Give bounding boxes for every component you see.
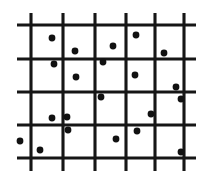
data-point-8 — [73, 74, 80, 81]
data-point-21 — [17, 138, 24, 145]
data-point-13 — [49, 115, 56, 122]
data-point-2 — [72, 48, 79, 55]
grid-scatter-canvas — [0, 0, 209, 181]
data-point-18 — [113, 136, 120, 143]
data-point-6 — [51, 61, 58, 68]
data-point-15 — [148, 111, 155, 118]
data-point-5 — [161, 50, 168, 57]
data-point-11 — [98, 94, 105, 101]
data-point-3 — [110, 43, 117, 50]
data-point-4 — [133, 32, 140, 39]
data-point-7 — [100, 59, 107, 66]
data-point-19 — [37, 147, 44, 154]
data-point-20 — [178, 149, 185, 156]
data-point-17 — [134, 128, 141, 135]
grid-scatter-figure — [0, 0, 209, 181]
data-point-12 — [178, 96, 185, 103]
data-point-9 — [132, 72, 139, 79]
data-point-10 — [173, 84, 180, 91]
data-point-1 — [49, 35, 56, 42]
data-point-14 — [64, 114, 71, 121]
data-point-16 — [65, 127, 72, 134]
